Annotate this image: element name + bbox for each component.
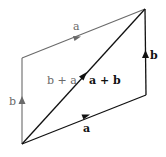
edge-top-a [22,9,145,58]
arrow-top-a-icon [73,36,81,41]
arrow-left-b-icon [19,96,26,104]
label-left-b: b [9,95,16,108]
label-top-a: a [73,20,80,33]
label-bottom-a: a [83,122,90,135]
label-diag-b-plus-a: b + a [47,74,77,87]
label-right-b: b [150,49,158,62]
edge-bottom-a [22,95,146,144]
label-diag-a-plus-b: a + b [89,74,121,87]
arrow-right-b-icon [142,50,149,58]
vector-parallelogram-diagram: a b b a b + a a + b [0,0,166,157]
